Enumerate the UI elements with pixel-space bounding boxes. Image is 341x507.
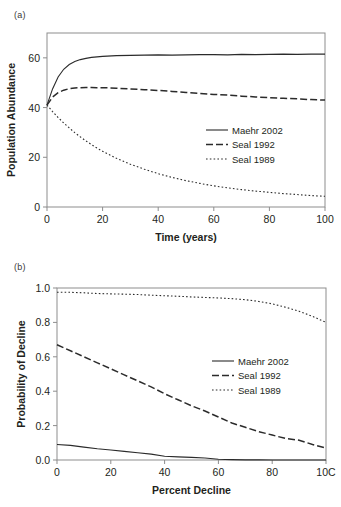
x-tick-label: 100 (316, 213, 334, 225)
y-tick-label: 1.0 (35, 282, 50, 294)
panel-a: (a) 0204060801000204060Time (years)Popul… (0, 0, 341, 255)
panel-a-label: (a) (14, 10, 26, 20)
x-tick-label: 0 (44, 213, 50, 225)
legend-label: Maehr 2002 (238, 356, 289, 367)
legend-label: Seal 1992 (232, 139, 275, 150)
y-axis-title: Probability of Decline (15, 320, 27, 428)
y-tick-label: 20 (28, 151, 40, 163)
series-line (57, 292, 326, 322)
y-axis-title: Population Abundance (5, 63, 17, 177)
x-tick-label: 80 (264, 213, 276, 225)
y-tick-label: 60 (28, 52, 40, 64)
plot-frame (47, 33, 325, 207)
x-axis-title: Time (years) (155, 231, 217, 243)
panel-b-label: (b) (14, 262, 26, 272)
x-tick-label: 60 (213, 466, 225, 478)
series-line (47, 54, 325, 105)
y-tick-label: 0.0 (35, 454, 50, 466)
plot-frame (57, 288, 326, 460)
x-tick-label: 40 (159, 466, 171, 478)
x-axis-title: Percent Decline (152, 484, 231, 496)
x-tick-label: 60 (208, 213, 220, 225)
x-tick-label: 0 (54, 466, 60, 478)
y-tick-label: 0.6 (35, 351, 50, 363)
series-line (47, 105, 325, 196)
legend-label: Maehr 2002 (232, 125, 283, 136)
population-abundance-chart: 0204060801000204060Time (years)Populatio… (0, 0, 341, 255)
panel-b: (b) 02040608010C0.00.20.40.60.81.0Percen… (0, 255, 341, 507)
x-tick-label: 40 (152, 213, 164, 225)
x-tick-label: 20 (105, 466, 117, 478)
probability-of-decline-chart: 02040608010C0.00.20.40.60.81.0Percent De… (0, 255, 341, 507)
y-tick-label: 0.4 (35, 385, 50, 397)
y-tick-label: 0 (34, 201, 40, 213)
series-line (47, 87, 325, 105)
y-tick-label: 0.8 (35, 316, 50, 328)
series-line (57, 445, 326, 460)
legend-label: Seal 1989 (238, 385, 281, 396)
legend-label: Seal 1989 (232, 154, 275, 165)
x-tick-label: 10C (316, 466, 336, 478)
x-tick-label: 20 (97, 213, 109, 225)
y-tick-label: 0.2 (35, 420, 50, 432)
legend-label: Seal 1992 (238, 370, 281, 381)
x-tick-label: 80 (266, 466, 278, 478)
y-tick-label: 40 (28, 102, 40, 114)
